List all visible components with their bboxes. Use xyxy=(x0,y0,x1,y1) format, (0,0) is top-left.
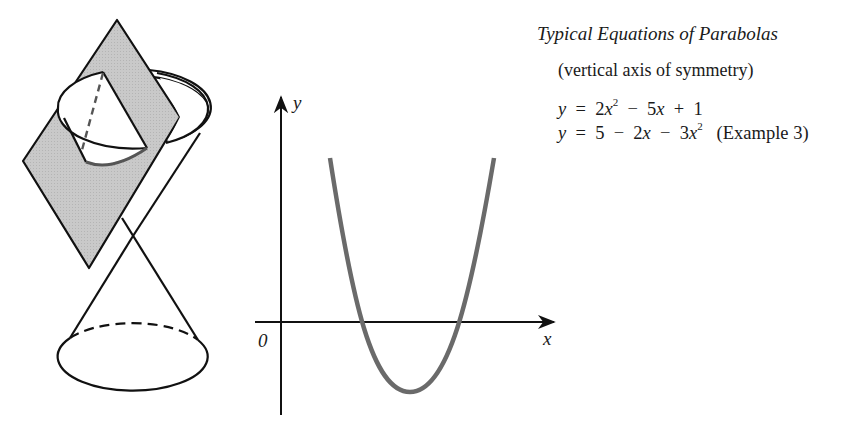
equation-1: y = 2x2 − 5x + 1 xyxy=(558,98,703,120)
lower-ellipse-front xyxy=(58,338,208,391)
parabola-graph xyxy=(255,97,554,415)
y-axis-label: y xyxy=(293,92,301,114)
parabola-curve xyxy=(330,158,494,392)
caption-subtitle: (vertical axis of symmetry) xyxy=(558,60,753,81)
equation-2: y = 5 − 2x − 3x2 (Example 3) xyxy=(558,122,809,144)
x-axis-label: x xyxy=(543,328,551,350)
lower-ellipse-back-dashed xyxy=(70,323,198,340)
caption-title: Typical Equations of Parabolas xyxy=(537,23,778,45)
equation-2-note: (Example 3) xyxy=(717,123,809,143)
conic-section-diagram xyxy=(23,20,211,391)
lower-cone-right-generator xyxy=(122,218,198,340)
origin-label: 0 xyxy=(258,330,268,352)
